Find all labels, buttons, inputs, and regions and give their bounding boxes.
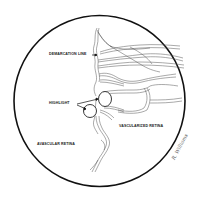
arrow-demarcation [95, 54, 97, 56]
label-highlight: HIGHLIGHT [49, 102, 70, 106]
label-avascular-retina: AVASCULAR RETINA [37, 143, 75, 147]
retina-diagram: DEMARCATION LINE HIGHLIGHT AVASCULAR RET… [0, 0, 197, 201]
arrow-highlight-upper [96, 98, 98, 101]
demarcation-ridge [93, 28, 99, 134]
highlight-oval-upper [99, 92, 112, 107]
label-vascularized-retina: VASCULARIZED RETINA [119, 125, 163, 129]
retina-illustration [0, 0, 197, 201]
leader-lines [77, 54, 98, 110]
highlight-oval-lower [84, 105, 97, 118]
highlight-reflexes [84, 92, 112, 118]
label-demarcation-line: DEMARCATION LINE [49, 53, 86, 57]
